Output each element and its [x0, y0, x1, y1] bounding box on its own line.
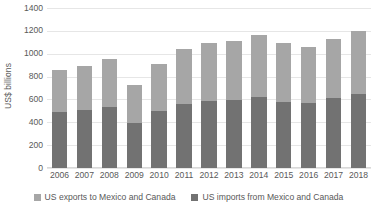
x-axis-tick-labels: 2006200720082009201020112012201320142015…: [47, 170, 371, 184]
y-axis-title: US$ billions: [0, 0, 16, 172]
bar-segment-exports: [301, 47, 316, 102]
y-axis-title-label: US$ billions: [3, 63, 13, 109]
bar-segment-exports: [201, 43, 216, 101]
bar-group-2014: [246, 8, 271, 168]
y-axis-tick-labels: 1400120010008006004002000: [16, 0, 46, 175]
bar-segment-imports: [151, 111, 166, 168]
square-swatch-icon: [34, 194, 41, 201]
bar-group-2007: [72, 8, 97, 168]
bar-segment-exports: [176, 49, 191, 104]
y-axis-tick-label: 1000: [24, 49, 43, 58]
legend-item-1[interactable]: US imports from Mexico and Canada: [191, 192, 343, 202]
x-axis-tick-label: 2007: [72, 170, 97, 184]
bar-segment-exports: [226, 41, 241, 100]
bar-segment-exports: [151, 64, 166, 111]
bar-segment-exports: [326, 39, 341, 98]
bar-group-2010: [147, 8, 172, 168]
gridline: [47, 168, 371, 169]
square-swatch-icon: [191, 194, 198, 201]
x-axis-tick-label: 2016: [296, 170, 321, 184]
bar-stack: [151, 64, 166, 168]
bar-segment-imports: [276, 102, 291, 168]
y-axis-tick-label: 0: [38, 164, 43, 173]
bar-segment-imports: [351, 94, 366, 168]
x-axis-tick-label: 2015: [271, 170, 296, 184]
y-axis-tick-label: 400: [29, 118, 43, 127]
bar-group-2006: [47, 8, 72, 168]
chart-legend: US exports to Mexico and CanadaUS import…: [0, 190, 377, 204]
bar-group-2013: [221, 8, 246, 168]
bar-group-2018: [346, 8, 371, 168]
plot-area: [47, 8, 371, 168]
bar-segment-exports: [276, 43, 291, 101]
bar-segment-imports: [127, 123, 142, 168]
bar-segment-imports: [176, 104, 191, 168]
x-axis-tick-label: 2014: [246, 170, 271, 184]
bar-segment-imports: [52, 112, 67, 168]
legend-item-0[interactable]: US exports to Mexico and Canada: [34, 192, 176, 202]
bar-segment-exports: [77, 66, 92, 110]
y-axis-tick-label: 600: [29, 95, 43, 104]
x-axis-tick-label: 2018: [346, 170, 371, 184]
legend-label: US exports to Mexico and Canada: [45, 192, 176, 202]
y-axis-tick-label: 800: [29, 72, 43, 81]
legend-label: US imports from Mexico and Canada: [202, 192, 343, 202]
bar-stack: [201, 43, 216, 168]
bar-stack: [127, 85, 142, 168]
x-axis-tick-label: 2008: [97, 170, 122, 184]
bar-segment-exports: [52, 70, 67, 112]
bar-group-2017: [321, 8, 346, 168]
bar-segment-imports: [326, 98, 341, 168]
x-axis-tick-label: 2017: [321, 170, 346, 184]
bar-segment-exports: [102, 59, 117, 108]
bars-layer: [47, 8, 371, 168]
bar-stack: [326, 39, 341, 168]
x-axis-tick-label: 2006: [47, 170, 72, 184]
bar-group-2015: [271, 8, 296, 168]
bar-stack: [77, 66, 92, 168]
bar-stack: [276, 43, 291, 168]
stacked-bar-chart: US$ billions 1400120010008006004002000 2…: [0, 0, 377, 209]
bar-stack: [226, 41, 241, 168]
bar-group-2011: [172, 8, 197, 168]
bar-segment-imports: [251, 97, 266, 168]
bar-stack: [351, 31, 366, 168]
bar-group-2016: [296, 8, 321, 168]
bar-stack: [301, 47, 316, 168]
bar-segment-imports: [77, 110, 92, 168]
bar-segment-imports: [301, 103, 316, 168]
bar-segment-exports: [127, 85, 142, 124]
y-axis-tick-label: 1200: [24, 26, 43, 35]
x-axis-tick-label: 2009: [122, 170, 147, 184]
bar-group-2012: [197, 8, 222, 168]
bar-segment-exports: [251, 35, 266, 96]
y-axis-tick-label: 200: [29, 141, 43, 150]
bar-segment-imports: [201, 101, 216, 168]
bar-group-2009: [122, 8, 147, 168]
x-axis-tick-label: 2010: [147, 170, 172, 184]
x-axis-tick-label: 2013: [221, 170, 246, 184]
bar-group-2008: [97, 8, 122, 168]
y-axis-tick-label: 1400: [24, 4, 43, 13]
bar-segment-imports: [226, 100, 241, 168]
bar-stack: [176, 49, 191, 168]
bar-segment-imports: [102, 107, 117, 168]
bar-stack: [52, 70, 67, 168]
x-axis-tick-label: 2011: [172, 170, 197, 184]
bar-stack: [102, 59, 117, 168]
bar-segment-exports: [351, 31, 366, 94]
bar-stack: [251, 35, 266, 168]
x-axis-tick-label: 2012: [197, 170, 222, 184]
